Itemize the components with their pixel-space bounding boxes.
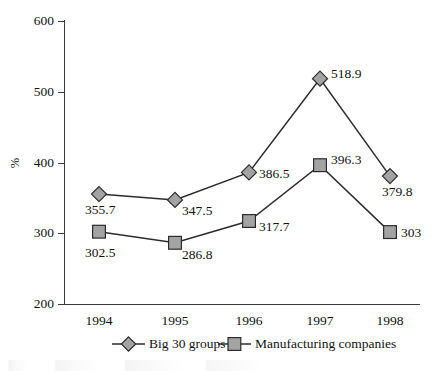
data-labels-big-30-groups: 355.7 347.5 386.5 518.9 379.8 [85,66,413,218]
series-line-big-30-groups [99,79,390,200]
marker-manufacturing-1995 [169,236,182,249]
marker-big30-1997 [313,71,328,86]
marker-manufacturing-1997 [314,159,327,172]
data-label-big30-1998: 379.8 [382,184,413,199]
marker-big30-1996 [242,165,257,180]
x-tick-label-1995: 1995 [162,313,189,328]
data-label-big30-1996: 386.5 [259,166,290,181]
axis-group [58,20,420,305]
marker-big30-1994 [92,187,107,202]
marker-big30-1995 [168,192,183,207]
y-axis-title: % [8,158,22,168]
data-label-big30-1997: 518.9 [331,66,362,81]
legend-marker-square-icon [228,338,241,351]
y-tick-labels: 600 500 400 300 200 [34,13,55,311]
y-tick-label-600: 600 [34,13,55,28]
chart-legend: Big 30 groups Manufacturing companies [112,336,396,352]
x-tick-label-1997: 1997 [307,313,334,328]
data-label-manufacturing-1995: 286.8 [182,247,213,262]
y-axis-title-group: % [8,158,22,168]
data-label-big30-1995: 347.5 [182,203,213,218]
data-label-manufacturing-1994: 302.5 [85,245,116,260]
marker-big30-1998 [383,169,398,184]
data-label-manufacturing-1997: 396.3 [331,152,362,167]
y-tick-label-300: 300 [34,225,55,240]
y-tick-label-400: 400 [34,155,55,170]
series-big-30-groups [92,71,398,207]
data-label-manufacturing-1996: 317.7 [259,219,290,234]
marker-manufacturing-1998 [384,226,397,239]
legend-entry-manufacturing-companies: Manufacturing companies [218,336,396,351]
x-tick-label-1996: 1996 [236,313,263,328]
chart-canvas: 600 500 400 300 200 % 1994 1995 1996 199… [0,0,438,371]
data-label-big30-1994: 355.7 [85,202,116,217]
marker-manufacturing-1996 [243,215,256,228]
series-line-manufacturing-companies [99,165,390,243]
legend-entry-big-30-groups: Big 30 groups [112,336,226,352]
legend-label-big-30-groups: Big 30 groups [149,336,226,351]
x-tick-label-1994: 1994 [86,313,113,328]
x-tick-label-1998: 1998 [377,313,404,328]
marker-manufacturing-1994 [93,225,106,238]
y-tick-label-500: 500 [34,84,55,99]
legend-marker-diamond-icon [121,337,135,351]
y-tick-label-200: 200 [34,296,55,311]
legend-label-manufacturing-companies: Manufacturing companies [255,336,396,351]
line-chart-figure: 600 500 400 300 200 % 1994 1995 1996 199… [0,0,438,371]
x-tick-labels: 1994 1995 1996 1997 1998 [86,313,404,328]
data-label-manufacturing-1998: 303 [401,225,422,240]
